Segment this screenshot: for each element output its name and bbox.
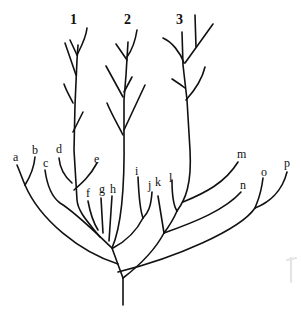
tree1-side-4 (70, 40, 77, 55)
tree1-side-5 (77, 28, 87, 55)
tree2-side-5 (116, 44, 127, 60)
branch-d (59, 158, 72, 183)
tree-label-3: 3 (176, 12, 183, 27)
branch-op-arc (118, 208, 255, 272)
tree3-side-5 (195, 15, 196, 47)
branch-g (101, 198, 103, 233)
branch-j (143, 192, 152, 218)
leaf-label-p: p (284, 156, 290, 170)
tree2-side-3 (106, 66, 123, 97)
tree-label-1: 1 (70, 12, 77, 27)
branch-i (138, 177, 143, 218)
leaf-label-m: m (237, 147, 247, 161)
leaf-label-n: n (240, 178, 246, 192)
branch-h (109, 196, 112, 241)
branch-m (183, 162, 238, 202)
branch-o (255, 178, 263, 208)
tree2-side-1 (107, 103, 123, 135)
leaf-label-d: d (56, 142, 62, 156)
tree-label-2: 2 (124, 12, 131, 27)
tree1-side-2 (64, 84, 73, 103)
branch-k (158, 196, 164, 233)
leaf-label-i: i (135, 164, 139, 178)
leaf-label-c: c (43, 156, 48, 170)
branch-f (88, 201, 98, 230)
leaf-label-o: o (261, 165, 267, 179)
faint-smudge (287, 258, 296, 282)
tree2-side-2 (124, 85, 145, 130)
branch-l (172, 180, 177, 211)
leaf-label-h: h (110, 182, 116, 196)
tree1-trunk (74, 45, 100, 237)
tree-diagram: 1 2 3 a b c d e f g h i j k l m n o p (0, 0, 301, 315)
branch-p (255, 172, 287, 208)
tree3-side-2 (172, 79, 185, 88)
leaf-label-g: g (99, 182, 105, 196)
tree2-trunk (112, 42, 128, 248)
leaf-label-f: f (86, 186, 90, 200)
leaf-label-e: e (94, 152, 99, 166)
leaf-label-b: b (32, 143, 38, 157)
branch-b (25, 157, 35, 185)
branch-ab-arc (25, 185, 118, 264)
right-stem (123, 233, 164, 278)
tree3-side-4 (185, 24, 213, 63)
leaf-label-k: k (155, 175, 161, 189)
leaf-label-a: a (13, 150, 19, 164)
leaf-label-j: j (147, 178, 151, 192)
tree3-side-1 (186, 67, 205, 100)
branch-a (17, 165, 25, 185)
tree3-side-3 (163, 38, 184, 63)
